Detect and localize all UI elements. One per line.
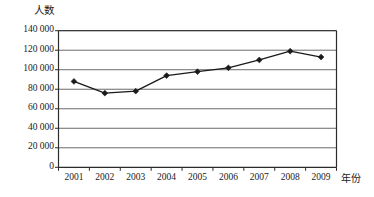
line-chart: 人数 年份 020 00040 00060 00080 000100 00012… <box>0 0 374 197</box>
gridlines <box>59 31 337 148</box>
axes <box>59 31 337 168</box>
plot-area <box>0 0 374 197</box>
